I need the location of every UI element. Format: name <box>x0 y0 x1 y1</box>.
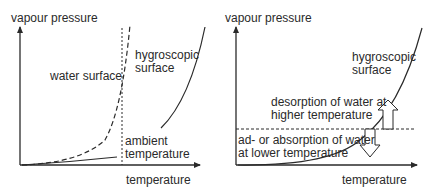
right-hygroscopic-label-1: hygroscopic <box>352 50 416 64</box>
water-surface-label: water surface <box>50 69 122 83</box>
right-x-axis-label: temperature <box>342 173 407 187</box>
desorption-label-1: desorption of water at <box>271 95 386 109</box>
ambient-temperature-label-2: temperature <box>125 147 190 161</box>
desorption-label-2: higher temperature <box>271 108 372 122</box>
left-y-axis-label: vapour pressure <box>11 11 98 25</box>
left-hygroscopic-label-1: hygroscopic <box>135 48 199 62</box>
left-water-surface-curve <box>22 25 130 165</box>
right-hygroscopic-label-2: surface <box>352 63 391 77</box>
left-hygroscopic-label-2: surface <box>135 61 174 75</box>
left-x-axis-label: temperature <box>126 173 191 187</box>
absorption-label-1: ad- or absorption of water <box>238 133 375 147</box>
right-y-axis-label: vapour pressure <box>225 11 312 25</box>
left-hygroscopic-curve-high <box>161 27 205 128</box>
left-chart <box>20 25 205 165</box>
absorption-label-2: at lower temperature <box>238 146 348 160</box>
ambient-temperature-label-1: ambient <box>125 134 168 148</box>
